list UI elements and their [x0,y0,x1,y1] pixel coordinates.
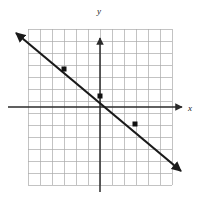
coordinate-graph-figure: y x [0,0,206,204]
x-axis-label: x [187,103,192,113]
data-point-marker [133,122,138,127]
data-point-marker [62,67,67,72]
data-point-marker [98,94,103,99]
coordinate-graph-svg: y x [0,0,206,204]
y-axis-label: y [96,6,101,16]
